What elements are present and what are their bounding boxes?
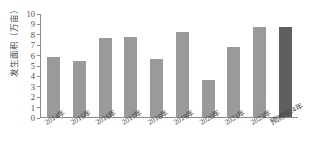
y-tick-mark [37, 118, 40, 119]
bar [124, 37, 137, 117]
y-tick-mark [37, 24, 40, 25]
y-tick-label: 10 [27, 9, 36, 19]
y-tick: 5 [16, 61, 40, 71]
y-tick-label: 5 [31, 61, 35, 71]
y-tick-mark [37, 76, 40, 77]
bar-slot [170, 14, 196, 117]
bar [47, 57, 60, 117]
bar [253, 27, 266, 117]
bar-chart: 发生面积（万亩） 012345678910 2014年2015年2016年201… [0, 0, 310, 160]
x-label-slot: 2015年 [67, 119, 93, 159]
x-label-slot: 2023年 [247, 119, 273, 159]
y-tick-mark [37, 14, 40, 15]
y-tick-mark [37, 97, 40, 98]
bar-slot [221, 14, 247, 117]
bar [150, 59, 163, 117]
y-tick: 0 [16, 113, 40, 123]
bar-slot [41, 14, 67, 117]
y-tick: 3 [16, 82, 40, 92]
x-label-slot: 2018年 [144, 119, 170, 159]
y-tick-label: 0 [31, 113, 35, 123]
y-tick-mark [37, 107, 40, 108]
y-tick: 8 [16, 30, 40, 40]
y-tick: 1 [16, 103, 40, 113]
y-tick-label: 6 [31, 51, 35, 61]
y-tick-mark [37, 55, 40, 56]
y-tick: 9 [16, 19, 40, 29]
y-tick-label: 7 [31, 40, 35, 50]
x-label-slot: 2019年 [170, 119, 196, 159]
x-label-slot: 2017年 [118, 119, 144, 159]
bar [99, 38, 112, 117]
plot-area: 012345678910 [40, 14, 298, 118]
bar [279, 27, 292, 117]
y-tick-mark [37, 66, 40, 67]
x-label-slot: 2016年 [93, 119, 119, 159]
bar-slot [272, 14, 298, 117]
bar [227, 47, 240, 117]
y-tick: 7 [16, 40, 40, 50]
x-label-slot: 2020年 [196, 119, 222, 159]
bar-slot [144, 14, 170, 117]
x-label-slot: 2014年 [41, 119, 67, 159]
x-label-slot: 预测2024年 [273, 119, 299, 159]
y-tick-mark [37, 45, 40, 46]
y-tick: 2 [16, 92, 40, 102]
y-tick-label: 9 [31, 19, 35, 29]
y-tick-label: 4 [31, 71, 35, 81]
bar-slot [247, 14, 273, 117]
bar [73, 61, 86, 117]
bar-slot [67, 14, 93, 117]
y-tick: 6 [16, 51, 40, 61]
y-tick-mark [37, 34, 40, 35]
y-tick-label: 2 [31, 92, 35, 102]
bar-series [41, 14, 298, 117]
bar-slot [118, 14, 144, 117]
bar-slot [92, 14, 118, 117]
y-tick: 4 [16, 71, 40, 81]
y-tick-label: 1 [31, 103, 35, 113]
x-label-slot: 2021年 [222, 119, 248, 159]
x-axis-labels: 2014年2015年2016年2017年2018年2019年2020年2021年… [41, 119, 299, 159]
y-tick: 10 [16, 9, 40, 19]
bar-slot [195, 14, 221, 117]
y-tick-label: 8 [31, 30, 35, 40]
bar [176, 32, 189, 117]
y-tick-mark [37, 86, 40, 87]
y-tick-label: 3 [31, 82, 35, 92]
